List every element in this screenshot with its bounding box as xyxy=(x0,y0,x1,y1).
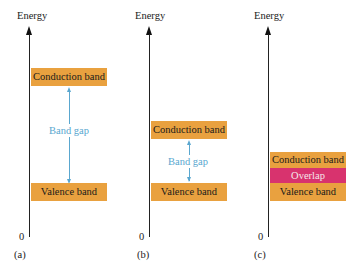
energy-axis-label: Energy xyxy=(254,10,284,21)
band-gap-label: Band gap xyxy=(168,155,208,168)
panel-label: (c) xyxy=(254,249,266,260)
panel-label: (a) xyxy=(14,249,26,260)
zero-label: 0 xyxy=(19,231,24,242)
panel-label: (b) xyxy=(137,249,149,260)
panel-c: Energy 0 (c) Conduction band Overlap Val… xyxy=(242,0,363,273)
valence-band: Valence band xyxy=(270,183,346,201)
band-gap-label: Band gap xyxy=(49,124,89,137)
panel-a: Energy 0 (a) Conduction band Band gap Va… xyxy=(0,0,121,273)
valence-band: Valence band xyxy=(31,183,107,201)
valence-band: Valence band xyxy=(151,183,227,201)
energy-axis xyxy=(29,34,30,237)
conduction-band: Conduction band xyxy=(151,121,227,139)
energy-axis xyxy=(268,34,269,237)
conduction-band: Conduction band xyxy=(31,68,107,86)
gap-arrow-down-icon xyxy=(187,177,191,182)
energy-axis-label: Energy xyxy=(17,10,47,21)
panel-b: Energy 0 (b) Conduction band Band gap Va… xyxy=(121,0,242,273)
energy-axis-label: Energy xyxy=(135,10,165,21)
zero-label: 0 xyxy=(258,231,263,242)
overlap-band: Overlap xyxy=(270,168,346,183)
energy-axis xyxy=(149,34,150,237)
conduction-band: Conduction band xyxy=(270,152,346,168)
zero-label: 0 xyxy=(139,231,144,242)
